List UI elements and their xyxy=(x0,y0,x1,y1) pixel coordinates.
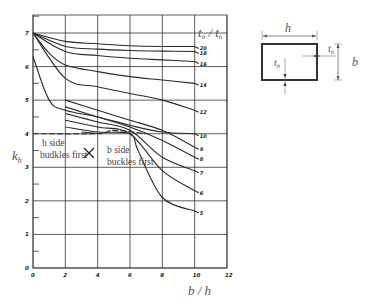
curve-label: 6 xyxy=(200,190,204,196)
cross-section-diagram: h tb b th xyxy=(262,21,358,95)
curve-2-0 xyxy=(33,33,195,46)
x-tick-label: 8 xyxy=(160,272,164,278)
diagram-label-tb: tb xyxy=(328,43,335,56)
annotation-b-side: b side xyxy=(107,145,129,155)
box-section xyxy=(262,44,317,80)
y-tick-label: 7 xyxy=(25,30,29,36)
curve-label: 8 xyxy=(200,156,204,162)
curve-1-4 xyxy=(33,33,195,83)
chart-labels: 20181614121098765 xyxy=(200,45,207,216)
x-tick-label: 2 xyxy=(63,272,67,278)
buckling-coefficient-chart: 02468101201234567 20181614121098765 b / … xyxy=(0,0,369,300)
x-tick-label: 6 xyxy=(128,272,132,278)
curve-label: 14 xyxy=(200,82,207,88)
diagram-label-h: h xyxy=(285,21,291,35)
x-tick-label: 4 xyxy=(96,272,100,278)
curve-label: 7 xyxy=(200,170,204,176)
y-axis-title: kh xyxy=(12,148,22,165)
y-tick-label: 1 xyxy=(25,231,29,237)
x-tick-label: 0 xyxy=(31,272,35,278)
annotation-h-side: h side xyxy=(42,138,64,148)
annotation-b-side-2: buckles first xyxy=(107,157,154,167)
y-tick-label: 3 xyxy=(25,164,29,170)
legend-title: tb / th xyxy=(198,25,223,41)
diagram-label-th: th xyxy=(274,57,281,70)
y-tick-label: 6 xyxy=(25,64,29,70)
chart-curves xyxy=(33,33,199,213)
curve-1-8 xyxy=(33,33,195,51)
y-tick-label: 2 xyxy=(25,198,29,204)
curve-label: 10 xyxy=(200,133,207,139)
x-tick-label: 10 xyxy=(193,272,201,278)
curve-label: 9 xyxy=(200,146,204,152)
x-tick-label: 12 xyxy=(225,272,233,278)
curve-label: 5 xyxy=(200,210,204,216)
diagram-label-b: b xyxy=(352,55,358,69)
curve-label: 12 xyxy=(200,109,207,115)
x-axis-title: b / h xyxy=(188,283,211,298)
curve-label: 18 xyxy=(200,50,207,56)
y-tick-label: 4 xyxy=(25,131,29,137)
y-tick-label: 0 xyxy=(25,265,29,271)
curve-label: 16 xyxy=(200,61,207,67)
annotation-h-side-2: budkles first xyxy=(40,150,88,160)
curve-1-6 xyxy=(33,33,195,62)
y-tick-label: 5 xyxy=(25,97,29,103)
